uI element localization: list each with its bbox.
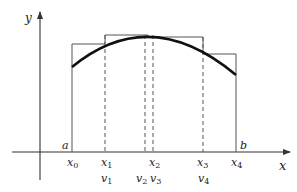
upper-rectangles xyxy=(72,35,236,152)
y-axis-label: y xyxy=(24,11,32,25)
dashed-partition-lines xyxy=(105,35,203,152)
label-x4: x4 xyxy=(231,156,242,170)
label-v4: v4 xyxy=(198,172,209,186)
rectangle-4 xyxy=(203,54,236,152)
x-axis-label: x xyxy=(279,158,287,173)
b-label: b xyxy=(240,139,247,152)
label-x0: x0 xyxy=(67,156,78,170)
diagram-canvas: y x a b x0 x1 x2 x3 x4 v1 v2 v3 v4 xyxy=(0,0,297,192)
label-x2: x2 xyxy=(149,156,160,170)
label-v1: v1 xyxy=(101,172,112,186)
label-v2: v2 xyxy=(136,172,147,186)
function-curve xyxy=(72,37,236,75)
partition-labels: x0 x1 x2 x3 x4 xyxy=(67,156,242,170)
label-x3: x3 xyxy=(197,156,208,170)
label-x1: x1 xyxy=(101,156,112,170)
rectangle-1 xyxy=(72,35,105,152)
upper-sum-diagram: y x a b x0 x1 x2 x3 x4 v1 v2 v3 v4 xyxy=(0,0,297,192)
label-v3: v3 xyxy=(150,172,161,186)
a-label: a xyxy=(62,139,69,152)
sample-labels: v1 v2 v3 v4 xyxy=(101,172,209,186)
